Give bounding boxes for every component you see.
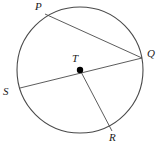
circle-diagram-svg [0, 0, 164, 147]
center-point-dot [77, 67, 83, 73]
point-label-r: R [109, 132, 116, 143]
chord-segment-PQ [45, 14, 142, 58]
point-label-s: S [3, 86, 9, 97]
radius-segment-TR [80, 70, 112, 131]
geometry-figure: P Q S R T [0, 0, 164, 147]
point-label-t: T [72, 53, 78, 64]
point-label-q: Q [147, 48, 155, 59]
point-label-p: P [35, 1, 42, 12]
